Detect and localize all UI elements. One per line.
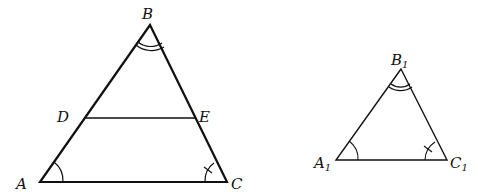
angle-c-arc	[205, 163, 214, 182]
angle-c-tick	[204, 167, 212, 173]
label-c1: C1	[450, 154, 468, 173]
label-a: A	[14, 175, 27, 193]
similar-triangles-diagram: B A C D E B1 A1 C1	[0, 0, 478, 194]
label-b: B	[141, 5, 153, 23]
label-a1: A1	[312, 154, 331, 173]
angle-b1-arc-inner	[391, 84, 410, 87]
triangle-abc	[40, 25, 227, 182]
label-c: C	[231, 175, 243, 193]
angle-c1-tick	[424, 146, 432, 152]
angle-a-arc	[54, 162, 63, 182]
label-d: D	[56, 108, 69, 126]
angle-a1-arc	[349, 141, 358, 160]
label-e: E	[198, 108, 210, 126]
label-b1: B1	[390, 51, 408, 70]
